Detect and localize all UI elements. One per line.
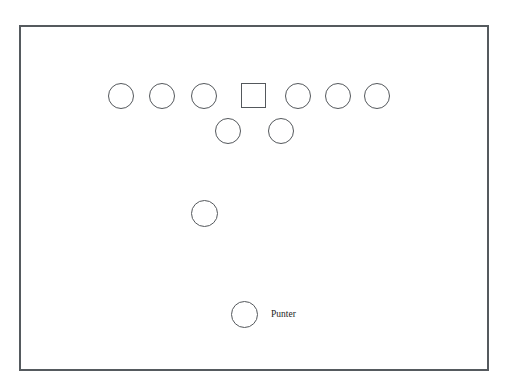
player-line-left-end[interactable] [108,83,134,109]
player-line-right-tackle[interactable] [325,83,351,109]
diagram-canvas: Punter [0,0,506,385]
player-line-right-guard[interactable] [285,83,311,109]
punter-label: Punter [271,310,296,320]
player-line-left-guard[interactable] [191,83,217,109]
player-upback[interactable] [191,200,218,227]
player-line-left-tackle[interactable] [149,83,175,109]
player-punter[interactable] [231,301,258,328]
player-long-snapper[interactable] [241,83,266,108]
player-line-right-end[interactable] [364,83,390,109]
player-wing-left[interactable] [215,118,241,144]
player-wing-right[interactable] [268,118,294,144]
